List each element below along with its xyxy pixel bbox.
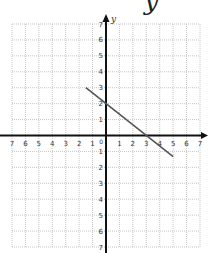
x-tick-label: 5 [37, 140, 41, 148]
x-tick-label: 1 [117, 140, 121, 148]
x-tick-label: 7 [10, 140, 14, 148]
y-tick-label: 7 [99, 21, 103, 29]
y-tick-label: 1 [99, 148, 103, 156]
y-tick-label: 7 [99, 244, 103, 252]
y-tick-label: 5 [99, 52, 103, 60]
x-tick-label: 7 [198, 140, 202, 148]
y-tick-label: 4 [99, 68, 104, 76]
y-tick-label: 2 [99, 164, 103, 172]
y-tick-label: 1 [99, 116, 103, 124]
coordinate-plane: y 76543211234567765432112345670 [0, 0, 208, 253]
y-tick-label: 3 [99, 180, 103, 188]
x-tick-label: 2 [77, 140, 81, 148]
x-tick-label: 2 [131, 140, 135, 148]
axes: y [0, 14, 208, 253]
x-tick-label: 6 [23, 140, 28, 148]
origin-label: 0 [99, 138, 103, 145]
x-tick-label: 5 [171, 140, 175, 148]
x-tick-label: 4 [50, 140, 55, 148]
y-tick-label: 6 [99, 36, 104, 44]
x-axis-arrow-icon [201, 132, 208, 139]
x-tick-label: 6 [184, 140, 189, 148]
x-tick-label: 1 [90, 140, 94, 148]
y-tick-label: 4 [99, 196, 104, 204]
y-tick-label: 3 [99, 84, 103, 92]
y-axis-label: y [110, 14, 117, 24]
y-tick-label: 5 [99, 212, 103, 220]
y-axis-arrow-icon [103, 14, 110, 22]
y-tick-label: 6 [99, 228, 104, 236]
x-tick-label: 3 [63, 140, 67, 148]
x-tick-label: 3 [144, 140, 148, 148]
